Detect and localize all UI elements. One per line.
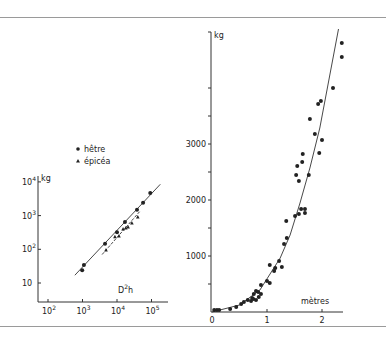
data-point bbox=[273, 266, 277, 270]
right-y-label: kg bbox=[214, 31, 224, 40]
data-point bbox=[308, 117, 312, 121]
data-point bbox=[280, 265, 284, 269]
data-point-hetre bbox=[141, 201, 145, 205]
data-point bbox=[340, 55, 344, 59]
data-point bbox=[277, 259, 281, 263]
left-x-tick-label: 102 bbox=[42, 304, 56, 316]
data-point bbox=[313, 132, 317, 136]
data-point bbox=[307, 173, 311, 177]
data-point bbox=[301, 152, 305, 156]
left-x-tick-label: 105 bbox=[146, 304, 160, 316]
fit-line-triangle bbox=[102, 212, 139, 255]
data-point-hetre bbox=[135, 208, 139, 212]
data-point bbox=[340, 41, 344, 45]
data-point bbox=[297, 179, 301, 183]
left-x-label: D2h bbox=[118, 283, 133, 295]
data-point bbox=[320, 138, 324, 142]
legend: hêtre épicéa bbox=[76, 144, 111, 166]
data-point bbox=[295, 164, 299, 168]
data-point bbox=[234, 305, 238, 309]
data-point bbox=[293, 214, 297, 218]
legend-label-epicea: épicéa bbox=[84, 156, 111, 166]
data-point bbox=[282, 242, 286, 246]
data-point-hetre bbox=[80, 268, 84, 272]
data-point-epicea bbox=[130, 221, 134, 225]
data-point-hetre bbox=[123, 220, 127, 224]
data-point-hetre bbox=[82, 263, 86, 267]
right-y-tick-label: 1000 bbox=[186, 252, 206, 261]
data-point bbox=[242, 300, 246, 304]
right-y-tick-label: 3000 bbox=[186, 140, 206, 149]
data-point bbox=[316, 102, 320, 106]
figure: 10410310210 102103104105 kg D2h hêtre ép… bbox=[0, 0, 386, 344]
data-point bbox=[259, 292, 263, 296]
data-point bbox=[285, 236, 289, 240]
left-x-tick-label: 104 bbox=[111, 304, 125, 316]
right-y-ticks: 300020001000 bbox=[186, 88, 211, 284]
data-point bbox=[268, 263, 272, 267]
data-point-hetre bbox=[103, 242, 107, 246]
left-x-tick-label: 103 bbox=[77, 304, 91, 316]
right-x-ticks: 012 bbox=[209, 309, 324, 325]
data-point bbox=[303, 211, 307, 215]
right-x-tick-label: 1 bbox=[264, 316, 269, 325]
data-point bbox=[319, 99, 323, 103]
right-x-tick-label: 2 bbox=[319, 316, 324, 325]
right-chart: 300020001000 012 kg mètres bbox=[186, 29, 344, 325]
data-point bbox=[331, 86, 335, 90]
data-point bbox=[284, 219, 288, 223]
left-chart: 10410310210 102103104105 kg D2h hêtre ép… bbox=[22, 144, 168, 316]
data-point bbox=[268, 281, 272, 285]
legend-label-hetre: hêtre bbox=[84, 144, 105, 154]
legend-triangle-icon bbox=[76, 159, 80, 163]
right-y-tick-label: 2000 bbox=[186, 196, 206, 205]
left-fit-lines bbox=[75, 184, 160, 275]
data-point bbox=[303, 207, 307, 211]
data-point bbox=[259, 283, 263, 287]
data-point bbox=[217, 308, 221, 312]
right-data-points bbox=[212, 41, 344, 312]
data-point bbox=[297, 212, 301, 216]
data-point bbox=[294, 173, 298, 177]
left-y-tick-label: 102 bbox=[22, 242, 36, 254]
left-data-points bbox=[80, 191, 152, 272]
data-point bbox=[228, 307, 232, 311]
left-y-tick-label: 104 bbox=[22, 175, 36, 187]
data-point bbox=[254, 298, 258, 302]
right-x-tick-label: 0 bbox=[209, 316, 214, 325]
data-point-epicea bbox=[104, 248, 108, 252]
left-y-label: kg bbox=[41, 174, 51, 183]
data-point bbox=[317, 151, 321, 155]
data-point-hetre bbox=[115, 230, 119, 234]
right-x-label: mètres bbox=[301, 296, 329, 306]
legend-circle-icon bbox=[76, 147, 80, 151]
data-point-hetre bbox=[148, 191, 152, 195]
data-point bbox=[299, 207, 303, 211]
left-y-tick-label: 10 bbox=[22, 279, 32, 288]
fit-line-circle bbox=[75, 184, 160, 275]
data-point bbox=[300, 160, 304, 164]
data-point-epicea bbox=[113, 235, 117, 239]
left-y-tick-label: 103 bbox=[22, 209, 36, 221]
